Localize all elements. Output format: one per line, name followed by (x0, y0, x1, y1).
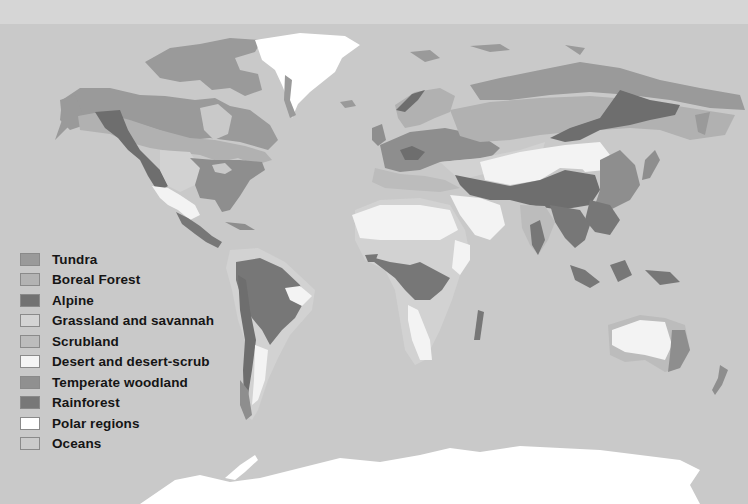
southeast-asia-rainforest (550, 205, 590, 248)
legend-item-temperate-woodland: Temperate woodland (20, 372, 214, 393)
legend-label: Grassland and savannah (52, 313, 214, 328)
mediterranean-scrub (372, 168, 460, 192)
britain (372, 124, 386, 146)
legend-item-tundra: Tundra (20, 249, 214, 270)
swatch-tundra (20, 253, 40, 266)
swatch-rainforest (20, 396, 40, 409)
swatch-alpine (20, 294, 40, 307)
swatch-boreal-forest (20, 273, 40, 286)
legend-item-scrubland: Scrubland (20, 331, 214, 352)
new-zealand (712, 365, 728, 395)
horn-of-africa-desert (452, 240, 470, 275)
sahara-desert (352, 205, 458, 240)
legend-label: Tundra (52, 252, 97, 267)
legend-label: Temperate woodland (52, 375, 188, 390)
legend-label: Scrubland (52, 334, 119, 349)
japan (642, 150, 660, 180)
legend-item-polar-regions: Polar regions (20, 413, 214, 434)
biome-legend: Tundra Boreal Forest Alpine Grassland an… (20, 249, 214, 454)
legend-item-desert: Desert and desert-scrub (20, 352, 214, 373)
legend-label: Oceans (52, 436, 101, 451)
swatch-grassland-savannah (20, 314, 40, 327)
iceland (340, 100, 356, 108)
legend-item-grassland-savannah: Grassland and savannah (20, 311, 214, 332)
swatch-temperate-woodland (20, 376, 40, 389)
legend-item-oceans: Oceans (20, 434, 214, 455)
swatch-polar-regions (20, 417, 40, 430)
indonesia-rainforest (570, 260, 680, 288)
legend-label: Desert and desert-scrub (52, 354, 210, 369)
legend-label: Polar regions (52, 416, 140, 431)
antarctic-peninsula (225, 455, 258, 480)
caribbean-islands (225, 222, 255, 230)
arctic-islands-eurasia (410, 44, 585, 62)
swatch-scrubland (20, 335, 40, 348)
swatch-desert (20, 355, 40, 368)
swatch-oceans (20, 437, 40, 450)
central-america-rainforest (176, 212, 222, 248)
legend-label: Boreal Forest (52, 272, 140, 287)
legend-item-alpine: Alpine (20, 290, 214, 311)
antarctica-polar (140, 446, 700, 504)
legend-item-rainforest: Rainforest (20, 393, 214, 414)
legend-label: Alpine (52, 293, 94, 308)
madagascar (474, 310, 484, 340)
legend-item-boreal-forest: Boreal Forest (20, 270, 214, 291)
canada-arctic-islands-tundra (145, 38, 262, 96)
mexico-desert (152, 186, 200, 220)
legend-label: Rainforest (52, 395, 120, 410)
